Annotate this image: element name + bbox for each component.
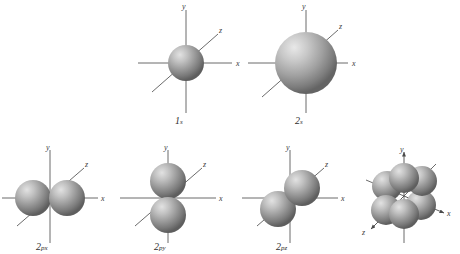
y-axis-label: y <box>399 145 404 154</box>
orbital-label-sub: s <box>180 118 183 126</box>
orbital-label-sub: py <box>158 244 167 252</box>
orbital-lobe <box>168 45 204 81</box>
orbital-figure: y x z 1s y x z 2s y x z 2px <box>0 0 460 254</box>
z-axis-label: z <box>324 160 329 169</box>
orbital-label-1s: 1s <box>175 115 183 126</box>
orbital-label-2s: 2s <box>295 115 303 126</box>
orbital-label-2px: 2px <box>36 241 49 252</box>
orbital-1s: y x z 1s <box>138 2 240 126</box>
orbital-lobe <box>150 197 186 233</box>
y-axis-label: y <box>301 2 306 11</box>
orbital-lobe <box>284 170 320 206</box>
orbital-lobe <box>275 32 337 94</box>
orbital-2py: y x z 2py <box>120 143 223 252</box>
z-axis-label: z <box>84 160 89 169</box>
orbital-2p-combined: y x z <box>361 145 451 243</box>
orbital-lobe <box>150 163 186 199</box>
orbital-label-2pz: 2pz <box>276 241 288 252</box>
y-axis-label: y <box>163 143 168 152</box>
x-axis-label: x <box>100 194 105 203</box>
orbital-2s: y x z 2s <box>248 2 356 126</box>
orbital-lobe <box>389 163 419 193</box>
z-axis-label: z <box>361 228 366 237</box>
x-axis-label: x <box>340 194 345 203</box>
orbital-lobe <box>389 199 419 229</box>
z-axis-label: z <box>218 26 223 35</box>
x-axis-label: x <box>235 59 240 68</box>
orbital-lobe <box>49 180 85 216</box>
x-axis-label: x <box>351 59 356 68</box>
x-axis-label: x <box>446 209 451 218</box>
y-axis-label: y <box>45 143 50 152</box>
x-axis-label: x <box>218 194 223 203</box>
orbital-2px: y x z 2px <box>2 143 105 252</box>
orbital-label-sub: px <box>40 244 49 252</box>
z-axis-label: z <box>338 22 343 31</box>
orbital-label-sub: pz <box>280 244 288 252</box>
orbital-label-2py: 2py <box>154 241 167 252</box>
orbital-2pz: y x z 2pz <box>242 143 345 252</box>
orbital-label-sub: s <box>300 118 303 126</box>
z-axis-label: z <box>202 160 207 169</box>
y-axis-label: y <box>285 143 290 152</box>
orbital-lobe <box>15 180 51 216</box>
y-axis-label: y <box>181 2 186 11</box>
